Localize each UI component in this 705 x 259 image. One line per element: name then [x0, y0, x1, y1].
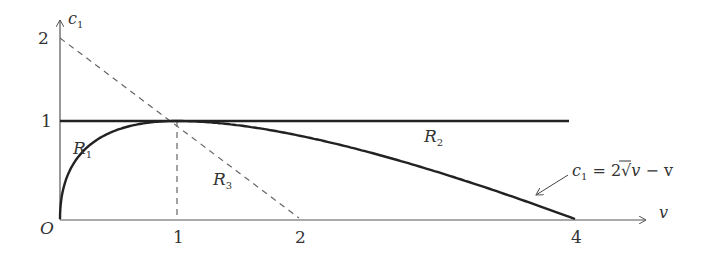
curve-equation-label: c1 = 2√v − v — [572, 161, 673, 182]
origin-label: O — [40, 218, 54, 238]
y-tick-2: 2 — [38, 28, 49, 48]
region-label-r1: R1 — [72, 138, 92, 160]
region-label-r3: R3 — [212, 169, 232, 191]
x-axis-label: v — [659, 203, 668, 222]
x-tick-1: 1 — [173, 227, 184, 247]
equation-pointer-arrow — [536, 175, 568, 195]
y-tick-1: 1 — [41, 111, 52, 131]
x-tick-4: 4 — [571, 227, 582, 247]
x-tick-2: 2 — [295, 227, 306, 247]
region-label-r2: R2 — [423, 126, 443, 148]
curve-c1-2sqrtv-minus-v — [60, 121, 575, 219]
diagram-canvas: c1 v O 2 1 1 2 4 R1 R2 R3 c1 = 2√v − v — [0, 0, 705, 259]
y-axis-label: c1 — [68, 9, 83, 30]
